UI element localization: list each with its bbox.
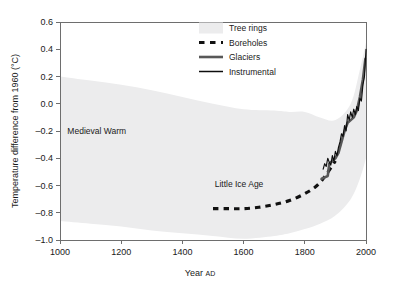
y-axis-tick-labels: –1.0–0.8–0.6–0.4–0.20.00.20.40.6 [35,17,53,245]
y-tick-label: –0.2 [35,126,53,136]
y-tick-label: 0.2 [40,72,53,82]
y-tick-label: –0.8 [35,208,53,218]
y-tick-label: –1.0 [35,235,53,245]
y-tick-label: –0.4 [35,153,53,163]
x-axis-tick-labels: 100012001400160018002000 [50,247,376,257]
x-tick-label: 2000 [356,247,376,257]
y-axis-ticks [56,22,60,240]
x-tick-label: 1600 [234,247,254,257]
legend-label-boreholes: Boreholes [229,38,267,48]
y-tick-label: 0.0 [40,99,53,109]
legend-swatch-tree-rings [199,23,223,34]
climate-reconstruction-figure: 100012001400160018002000 –1.0–0.8–0.6–0.… [0,0,399,287]
legend-label-instrumental: Instrumental [229,67,276,77]
chart-canvas: 100012001400160018002000 –1.0–0.8–0.6–0.… [0,0,399,287]
y-tick-label: 0.4 [40,44,53,54]
annotation-little-ice-age: Little Ice Age [215,179,264,189]
legend-label-tree-rings: Tree rings [229,23,267,33]
y-tick-label: 0.6 [40,17,53,27]
x-tick-label: 1200 [111,247,131,257]
x-axis-title: Year AD [185,268,215,278]
chart-legend: Tree ringsBoreholesGlaciersInstrumental [199,23,276,77]
y-axis-title: Temperature difference from 1960 (°C) [10,54,20,208]
x-axis-ticks [60,240,366,244]
legend-label-glaciers: Glaciers [229,52,260,62]
x-tick-label: 1800 [295,247,315,257]
x-tick-label: 1400 [172,247,192,257]
annotation-medieval-warm: Medieval Warm [67,126,126,136]
x-tick-label: 1000 [50,247,70,257]
y-tick-label: –0.6 [35,181,53,191]
